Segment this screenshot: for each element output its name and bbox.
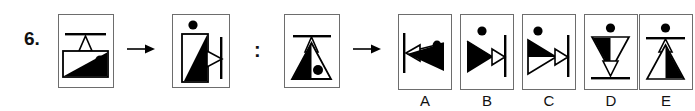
relation-colon: : [254,40,261,60]
right-arrow-icon [352,43,382,55]
option-c-letter: C [522,92,576,109]
option-e[interactable] [639,14,693,90]
option-d-glyph [585,15,636,88]
figure-3-query[interactable] [284,14,340,88]
question-number: 6. [24,28,40,50]
option-c-glyph [523,15,574,88]
option-a[interactable] [398,14,452,90]
arrow-query-to-options [352,43,382,55]
option-b[interactable] [460,14,514,90]
option-e-glyph [640,15,691,88]
right-arrow-icon [126,43,156,55]
visual-analogy-puzzle: 6. [0,0,695,111]
figure-1-source-glyph [59,15,112,86]
figure-3-query-glyph [285,15,338,86]
arrow-source-to-result [126,43,156,55]
option-b-letter: B [460,92,514,109]
option-a-letter: A [398,92,452,109]
option-e-letter: E [639,92,693,109]
option-d-letter: D [584,92,638,109]
figure-1-source[interactable] [58,14,114,88]
option-b-glyph [461,15,512,88]
option-d[interactable] [584,14,638,90]
option-a-glyph [399,15,450,88]
figure-2-result-glyph [173,15,228,86]
option-c[interactable] [522,14,576,90]
figure-2-result[interactable] [172,14,230,88]
